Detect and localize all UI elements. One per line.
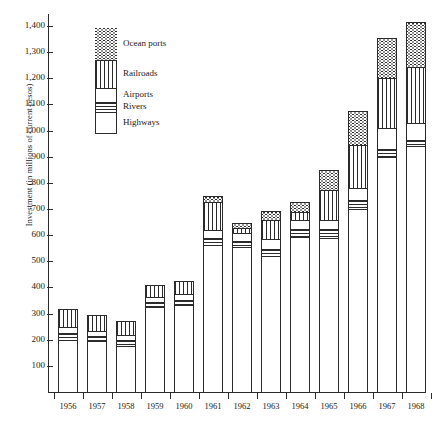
legend-label-ocean-ports: Ocean ports	[123, 38, 166, 48]
stacked-bar-chart: Investment (in millions of current pesos…	[0, 0, 432, 421]
bar-segment-railroads	[407, 67, 425, 123]
bar-segment-ocean-ports	[349, 112, 367, 146]
x-tick-mark	[402, 393, 403, 399]
x-tick-mark	[199, 393, 200, 399]
bar-segment-rivers	[291, 229, 309, 237]
x-tick-label: 1967	[379, 401, 396, 411]
bar-segment-railroads	[204, 202, 222, 230]
x-tick-label: 1960	[176, 401, 193, 411]
bar-segment-highways	[378, 157, 396, 392]
bar[interactable]	[348, 111, 368, 393]
y-tick-label: 1,100	[25, 98, 45, 108]
bar-segment-railroads	[146, 286, 164, 298]
bar-segment-ocean-ports	[407, 23, 425, 67]
bar-segment-railroads	[175, 282, 193, 295]
bar-segment-highways	[59, 340, 77, 392]
y-tick-label: 1,000	[25, 125, 45, 135]
bar-segment-ocean-ports	[291, 203, 309, 212]
bar[interactable]	[87, 315, 107, 393]
bar[interactable]	[203, 196, 223, 393]
x-tick-mark	[344, 393, 345, 399]
x-tick-mark	[373, 393, 374, 399]
bar[interactable]	[58, 309, 78, 393]
bar-segment-highways	[175, 305, 193, 392]
x-tick-label: 1957	[89, 401, 106, 411]
bar[interactable]	[377, 38, 397, 393]
y-tick-label: 1,400	[25, 20, 45, 30]
bar-segment-highways	[291, 237, 309, 392]
bar-segment-rivers	[262, 249, 280, 257]
x-tick-mark	[257, 393, 258, 399]
bar-segment-highways	[88, 341, 106, 392]
bar-segment-rivers	[320, 229, 338, 238]
bar-segment-rivers	[378, 149, 396, 157]
bar-segment-airports	[407, 123, 425, 140]
bar[interactable]	[406, 22, 426, 393]
x-tick-label: 1961	[205, 401, 222, 411]
y-tick-label: 1,300	[25, 46, 45, 56]
bar-segment-airports	[204, 230, 222, 238]
bar-segment-railroads	[320, 190, 338, 220]
bar-segment-airports	[320, 220, 338, 229]
legend-label-highways: Highways	[123, 117, 160, 127]
bar-segment-highways	[117, 346, 135, 392]
x-tick-label: 1958	[118, 401, 135, 411]
bar-segment-airports	[291, 220, 309, 229]
bar[interactable]	[145, 285, 165, 393]
bar-segment-highways	[320, 238, 338, 392]
x-tick-label: 1965	[321, 401, 338, 411]
bar-segment-highways	[262, 256, 280, 392]
bar-segment-airports	[378, 128, 396, 149]
x-tick-mark	[315, 393, 316, 399]
bar-segment-airports	[349, 188, 367, 200]
x-tick-mark	[54, 393, 55, 399]
legend-swatch-ocean-ports	[95, 28, 117, 60]
y-tick-label: 400	[32, 281, 46, 291]
bar-segment-railroads	[117, 322, 135, 335]
legend-label-railroads: Railroads	[123, 68, 158, 78]
y-tick-label: 200	[32, 334, 46, 344]
legend-label-rivers: Rivers	[123, 101, 147, 111]
legend-swatch-highways	[95, 112, 117, 134]
x-tick-mark	[431, 393, 432, 399]
y-tick-label: 500	[32, 255, 46, 265]
x-tick-mark	[112, 393, 113, 399]
bar-segment-railroads	[262, 220, 280, 239]
bar[interactable]	[290, 202, 310, 393]
bar-segment-highways	[204, 245, 222, 392]
bar[interactable]	[174, 281, 194, 393]
x-tick-label: 1966	[350, 401, 367, 411]
legend-swatch-railroads	[95, 60, 117, 88]
bar[interactable]	[319, 170, 339, 393]
y-tick-label: 600	[32, 229, 46, 239]
bar[interactable]	[232, 223, 252, 393]
y-tick-label: 1,200	[25, 72, 45, 82]
x-tick-mark	[83, 393, 84, 399]
x-tick-mark	[286, 393, 287, 399]
bar-segment-highways	[349, 209, 367, 392]
x-tick-mark	[228, 393, 229, 399]
bar-segment-railroads	[59, 310, 77, 327]
x-tick-label: 1959	[147, 401, 164, 411]
x-tick-label: 1963	[263, 401, 280, 411]
bar-segment-highways	[407, 146, 425, 392]
bar-segment-airports	[262, 239, 280, 248]
bar-segment-ocean-ports	[378, 39, 396, 78]
y-tick-label: 900	[32, 151, 46, 161]
bar-segment-railroads	[88, 316, 106, 331]
bar-segment-ocean-ports	[262, 212, 280, 220]
bar-segment-ocean-ports	[320, 171, 338, 190]
bar-segment-highways	[233, 247, 251, 392]
bar-segment-airports	[233, 233, 251, 241]
bar[interactable]	[261, 211, 281, 393]
y-tick-label: 800	[32, 177, 46, 187]
bar-segment-rivers	[349, 200, 367, 209]
bar-segment-railroads	[378, 78, 396, 129]
legend-swatch-rivers	[95, 102, 117, 112]
x-tick-mark	[170, 393, 171, 399]
bar[interactable]	[116, 321, 136, 393]
y-tick-label: 300	[32, 308, 46, 318]
x-tick-label: 1964	[292, 401, 309, 411]
legend-swatch-airports	[95, 88, 117, 102]
x-tick-label: 1962	[234, 401, 251, 411]
